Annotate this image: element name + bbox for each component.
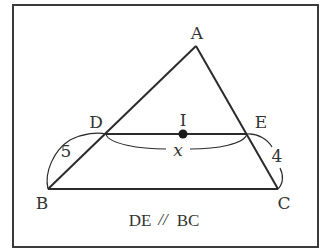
measure-label-de: x — [173, 140, 183, 160]
label-d: D — [89, 112, 103, 132]
label-b: B — [36, 193, 49, 213]
point-i — [179, 130, 188, 139]
measure-label-bd: 5 — [61, 141, 72, 161]
label-a: A — [190, 23, 204, 43]
label-e: E — [255, 112, 267, 132]
geometry-diagram: A B C D E I 5 4 x DE // BC — [0, 0, 323, 249]
label-i: I — [180, 110, 187, 130]
label-c: C — [277, 193, 290, 213]
caption-right: BC — [177, 211, 200, 230]
measure-label-ec: 4 — [272, 146, 283, 166]
caption-left: DE — [129, 211, 152, 230]
